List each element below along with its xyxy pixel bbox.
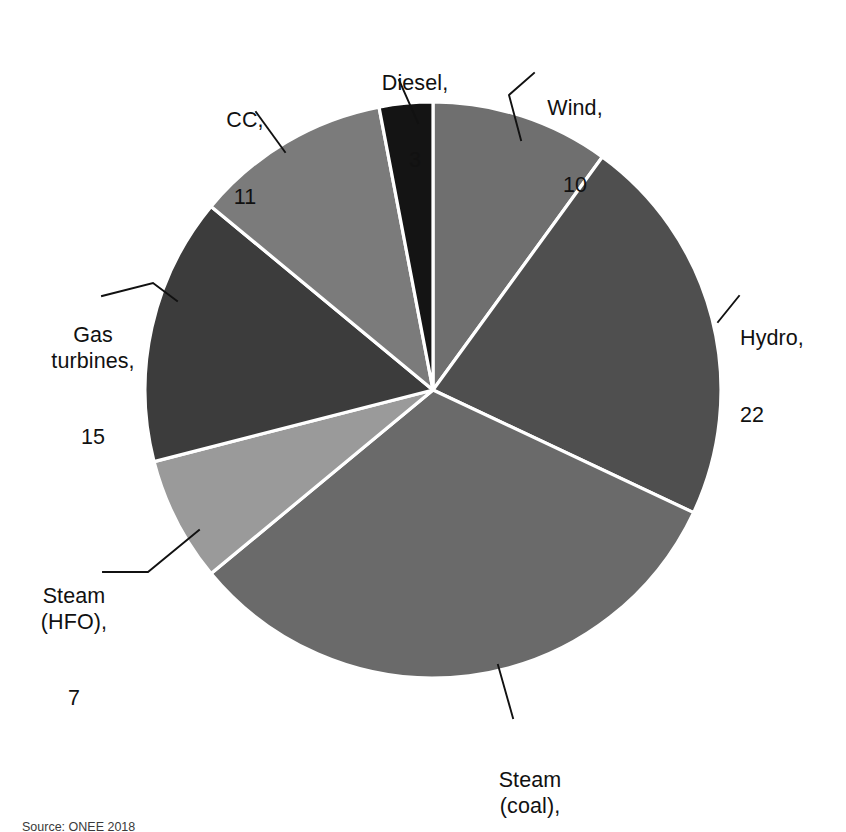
slice-label-diesel: Diesel, 3 — [355, 20, 475, 224]
slice-label-wind-name: Wind, — [520, 96, 630, 122]
slice-label-diesel-name: Diesel, — [355, 71, 475, 97]
slice-label-diesel-value: 3 — [355, 148, 475, 174]
slice-label-wind: Wind, 10 — [520, 45, 630, 249]
slice-label-gas-turbines-value: 15 — [18, 425, 168, 451]
slice-label-cc-name: CC, — [195, 108, 295, 134]
slice-label-gas-turbines-name: Gas turbines, — [18, 323, 168, 374]
slice-label-hydro: Hydro, 22 — [740, 275, 846, 479]
slice-label-steam-coal: Steam (coal), 32 — [455, 717, 605, 832]
slice-label-cc: CC, 11 — [195, 57, 295, 261]
source-note: Source: ONEE 2018 — [22, 820, 135, 832]
slice-label-cc-value: 11 — [195, 185, 295, 211]
leader-line-steam-coal — [498, 665, 513, 718]
slice-label-steam-hfo: Steam (HFO), 7 — [14, 533, 134, 763]
slice-label-hydro-value: 22 — [740, 403, 846, 429]
slice-label-hydro-name: Hydro, — [740, 326, 846, 352]
slice-label-wind-value: 10 — [520, 173, 630, 199]
leader-line-hydro — [718, 296, 739, 322]
slice-label-steam-coal-name: Steam (coal), — [455, 768, 605, 819]
pie-chart: Diesel, 3 Wind, 10 CC, 11 Hydro, 22 Gas … — [0, 0, 846, 832]
slice-label-steam-hfo-name: Steam (HFO), — [14, 584, 134, 635]
slice-label-gas-turbines: Gas turbines, 15 — [18, 272, 168, 502]
slice-label-steam-hfo-value: 7 — [14, 686, 134, 712]
